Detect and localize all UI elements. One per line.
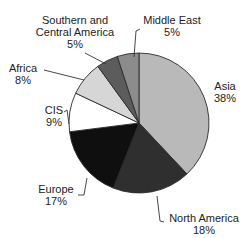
leader-europe — [78, 178, 87, 195]
label-europe-pct: 17% — [34, 195, 78, 207]
label-cis: CIS 9% — [42, 104, 66, 128]
leader-sca — [85, 53, 106, 64]
label-north-america-pct: 18% — [164, 224, 244, 236]
label-sca-name-2: Central America — [30, 26, 120, 38]
label-europe: Europe 17% — [34, 183, 78, 207]
label-cis-pct: 9% — [42, 116, 66, 128]
label-middle-east-name: Middle East — [137, 14, 207, 26]
leader-africa — [44, 70, 84, 80]
label-africa-pct: 8% — [6, 74, 40, 86]
label-africa: Africa 8% — [6, 62, 40, 86]
label-middle-east: Middle East 5% — [137, 14, 207, 38]
label-europe-name: Europe — [34, 183, 78, 195]
label-sca-pct: 5% — [30, 38, 120, 50]
label-asia-pct: 38% — [208, 92, 242, 104]
pie-slices — [69, 53, 209, 193]
label-africa-name: Africa — [6, 62, 40, 74]
label-asia: Asia 38% — [208, 80, 242, 104]
label-middle-east-pct: 5% — [137, 26, 207, 38]
label-north-america-name: North America — [164, 212, 244, 224]
leader-north-america — [157, 196, 164, 222]
label-asia-name: Asia — [208, 80, 242, 92]
label-sca: Southern and Central America 5% — [30, 14, 120, 50]
label-sca-name-1: Southern and — [30, 14, 120, 26]
label-north-america: North America 18% — [164, 212, 244, 236]
label-cis-name: CIS — [42, 104, 66, 116]
